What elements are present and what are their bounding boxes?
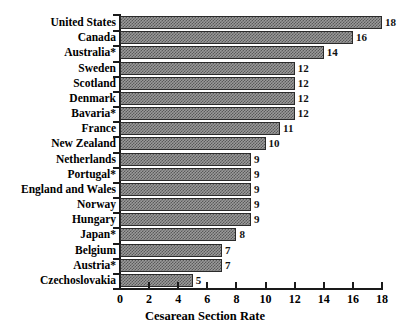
bar-row: 12: [120, 92, 382, 105]
bar: [120, 137, 266, 150]
bar: [120, 198, 251, 211]
bar-value-label: 12: [298, 106, 309, 120]
x-axis-title: Cesarean Section Rate: [0, 309, 410, 324]
category-label: Hungary: [0, 213, 116, 226]
bar-value-label: 8: [239, 227, 245, 241]
y-axis-tick: [113, 167, 120, 169]
y-axis-tick: [113, 227, 120, 229]
bar: [120, 228, 236, 241]
bar: [120, 213, 251, 226]
y-axis-tick: [113, 273, 120, 275]
category-label: Japan*: [0, 228, 116, 241]
bar-row: 14: [120, 46, 382, 59]
category-label: Belgium: [0, 244, 116, 257]
bar-value-label: 12: [298, 76, 309, 90]
x-axis-tick-label: 14: [318, 292, 330, 307]
category-label: New Zealand: [0, 137, 116, 150]
bar-value-label: 7: [225, 258, 231, 272]
y-axis-tick: [113, 91, 120, 93]
bar-row: 9: [120, 198, 382, 211]
bar: [120, 46, 324, 59]
bar-value-label: 9: [254, 152, 260, 166]
bar-value-label: 9: [254, 167, 260, 181]
category-label: Norway: [0, 198, 116, 211]
bar-row: 10: [120, 137, 382, 150]
y-axis-tick: [113, 106, 120, 108]
category-label: United States: [0, 16, 116, 29]
x-axis-tick-label: 10: [260, 292, 272, 307]
bar-value-label: 10: [269, 136, 280, 150]
bar-row: 5: [120, 274, 382, 287]
bar-value-label: 12: [298, 91, 309, 105]
y-axis-tick: [113, 45, 120, 47]
y-axis-tick: [113, 30, 120, 32]
bar: [120, 62, 295, 75]
bar-value-label: 14: [327, 45, 338, 59]
bar-value-label: 7: [225, 243, 231, 257]
bar-row: 16: [120, 31, 382, 44]
bar-value-label: 9: [254, 182, 260, 196]
bar-row: 9: [120, 183, 382, 196]
bar: [120, 168, 251, 181]
category-label-column: United StatesCanadaAustralia*SwedenScotl…: [0, 16, 116, 289]
category-label: Scotland: [0, 77, 116, 90]
x-axis-tick-label: 16: [347, 292, 359, 307]
category-label: Bavaria*: [0, 107, 116, 120]
y-axis-tick: [113, 152, 120, 154]
x-axis-tick-label: 0: [117, 292, 123, 307]
x-axis-tick: [177, 282, 179, 290]
bar-value-label: 16: [356, 30, 367, 44]
category-label: Portugal*: [0, 168, 116, 181]
bar-row: 12: [120, 107, 382, 120]
y-axis-tick: [113, 258, 120, 260]
x-axis-tick-label: 2: [146, 292, 152, 307]
bar: [120, 92, 295, 105]
bar: [120, 153, 251, 166]
bar-row: 18: [120, 16, 382, 29]
bar: [120, 107, 295, 120]
y-axis-tick: [113, 76, 120, 78]
y-axis-tick: [113, 121, 120, 123]
y-axis-tick: [113, 136, 120, 138]
bar: [120, 259, 222, 272]
x-axis-tick: [294, 282, 296, 290]
bar: [120, 274, 193, 287]
x-axis-tick-label: 18: [376, 292, 388, 307]
category-label: Netherlands: [0, 153, 116, 166]
bar: [120, 122, 280, 135]
y-axis-tick: [113, 243, 120, 245]
bar: [120, 244, 222, 257]
x-axis-tick: [148, 282, 150, 290]
bar: [120, 31, 353, 44]
bar-value-label: 18: [385, 15, 396, 29]
x-axis-tick-label: 12: [289, 292, 301, 307]
x-axis-tick: [119, 282, 121, 290]
y-axis-tick: [113, 14, 120, 16]
x-axis-tick-label: 6: [204, 292, 210, 307]
bar-value-label: 11: [283, 121, 293, 135]
category-label: France: [0, 122, 116, 135]
y-axis-tick: [113, 182, 120, 184]
x-axis-tick-label: 8: [233, 292, 239, 307]
cesarean-section-rate-bar-chart: United StatesCanadaAustralia*SwedenScotl…: [0, 0, 410, 331]
y-axis-tick: [113, 61, 120, 63]
bar-value-label: 9: [254, 212, 260, 226]
bar-row: 8: [120, 228, 382, 241]
bar: [120, 77, 295, 90]
category-label: England and Wales: [0, 183, 116, 196]
bar-row: 12: [120, 62, 382, 75]
x-axis-tick: [381, 282, 383, 290]
category-label: Sweden: [0, 62, 116, 75]
bar-row: 9: [120, 168, 382, 181]
category-label: Austria*: [0, 259, 116, 272]
x-axis-tick: [206, 282, 208, 290]
category-label: Czechoslovakia: [0, 274, 116, 287]
category-label: Australia*: [0, 46, 116, 59]
x-axis-tick-label: 4: [175, 292, 181, 307]
bar-row: 9: [120, 153, 382, 166]
y-axis-tick: [113, 197, 120, 199]
category-label: Denmark: [0, 92, 116, 105]
bar-value-label: 12: [298, 61, 309, 75]
bar: [120, 16, 382, 29]
y-axis-tick: [113, 212, 120, 214]
